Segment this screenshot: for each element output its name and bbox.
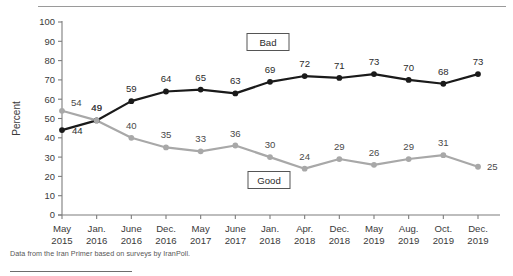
x-tick-label-year: 2016 xyxy=(155,235,176,246)
legend-good-label: Good xyxy=(257,175,280,186)
data-label-good: 25 xyxy=(487,161,498,172)
x-tick-label-year: 2018 xyxy=(294,235,315,246)
y-tick-label: 20 xyxy=(45,171,55,182)
data-point-bad xyxy=(232,91,238,97)
x-tick-label-year: 2019 xyxy=(398,235,419,246)
data-point-bad xyxy=(440,81,446,87)
bottom-divider-rule xyxy=(10,271,132,272)
data-label-good: 29 xyxy=(334,141,345,152)
y-axis-title: Percent xyxy=(11,101,22,136)
y-tick-label: 10 xyxy=(45,190,55,201)
x-tick-label-month: Dec. xyxy=(468,223,488,234)
y-tick-label: 80 xyxy=(45,55,55,66)
x-tick-label-month: May xyxy=(192,223,210,234)
data-point-good xyxy=(440,152,446,158)
data-point-good xyxy=(336,156,342,162)
data-point-good xyxy=(128,135,134,141)
y-tick-label: 30 xyxy=(45,152,55,163)
x-tick-label-year: 2019 xyxy=(433,235,454,246)
data-point-good xyxy=(232,143,238,149)
data-point-good xyxy=(267,154,273,160)
data-label-good: 26 xyxy=(369,147,380,158)
data-point-good xyxy=(59,108,65,114)
data-label-bad: 65 xyxy=(195,72,206,83)
x-tick-label-month: Aug. xyxy=(399,223,419,234)
data-point-good xyxy=(371,162,377,168)
data-label-good: 49 xyxy=(91,102,102,113)
legend-bad-label: Bad xyxy=(259,37,276,48)
data-point-good xyxy=(302,166,308,172)
x-tick-label-year: 2017 xyxy=(225,235,246,246)
x-tick-label-month: Apr. xyxy=(296,223,313,234)
x-tick-label-year: 2017 xyxy=(190,235,211,246)
x-tick-label-year: 2015 xyxy=(51,235,72,246)
x-tick-label-month: Dec. xyxy=(156,223,176,234)
data-point-bad xyxy=(406,77,412,83)
data-label-good: 30 xyxy=(265,139,276,150)
data-label-bad: 44 xyxy=(72,125,83,136)
data-label-good: 36 xyxy=(230,128,241,139)
data-label-good: 24 xyxy=(299,151,310,162)
y-tick-label: 100 xyxy=(39,16,55,27)
y-tick-label: 0 xyxy=(50,209,55,220)
data-point-good xyxy=(163,145,169,151)
x-tick-label-year: 2018 xyxy=(329,235,350,246)
chart-footnote: Data from the Iran Primer based on surve… xyxy=(10,249,190,258)
x-tick-label-month: May xyxy=(53,223,71,234)
y-tick-label: 40 xyxy=(45,132,55,143)
y-tick-label: 90 xyxy=(45,36,55,47)
x-tick-label-month: June xyxy=(121,223,142,234)
data-point-bad xyxy=(59,127,65,133)
data-label-good: 54 xyxy=(71,97,82,108)
x-tick-label-month: May xyxy=(365,223,383,234)
data-label-good: 29 xyxy=(403,141,414,152)
data-point-good xyxy=(198,148,204,154)
y-tick-label: 50 xyxy=(45,113,55,124)
data-label-good: 35 xyxy=(161,129,172,140)
data-point-bad xyxy=(267,79,273,85)
data-point-bad xyxy=(163,89,169,95)
x-tick-label-month: Jan. xyxy=(88,223,106,234)
data-point-bad xyxy=(198,87,204,93)
data-label-good: 33 xyxy=(195,133,206,144)
data-label-bad: 69 xyxy=(265,64,276,75)
data-point-good xyxy=(406,156,412,162)
data-point-good xyxy=(475,164,481,170)
data-label-bad: 71 xyxy=(334,60,345,71)
data-point-bad xyxy=(336,75,342,81)
y-tick-label: 70 xyxy=(45,74,55,85)
x-tick-label-month: Oct. xyxy=(435,223,453,234)
data-label-bad: 68 xyxy=(438,66,449,77)
data-label-bad: 70 xyxy=(403,62,414,73)
chart-page: 0102030405060708090100PercentMay2015Jan.… xyxy=(0,0,513,276)
x-tick-label-month: Jan. xyxy=(261,223,279,234)
data-label-bad: 64 xyxy=(161,73,172,84)
data-point-good xyxy=(94,118,100,124)
data-label-bad: 73 xyxy=(473,56,484,67)
data-label-bad: 73 xyxy=(369,56,380,67)
x-tick-label-year: 2016 xyxy=(121,235,142,246)
x-tick-label-month: June xyxy=(225,223,246,234)
x-tick-label-year: 2019 xyxy=(467,235,488,246)
data-label-bad: 63 xyxy=(230,75,241,86)
data-label-bad: 72 xyxy=(299,58,310,69)
data-point-bad xyxy=(475,71,481,77)
x-tick-label-year: 2019 xyxy=(363,235,384,246)
data-label-good: 31 xyxy=(438,137,449,148)
line-chart: 0102030405060708090100PercentMay2015Jan.… xyxy=(0,0,513,276)
x-tick-label-month: Dec. xyxy=(329,223,349,234)
x-tick-label-year: 2016 xyxy=(86,235,107,246)
data-label-bad: 59 xyxy=(126,83,137,94)
data-point-bad xyxy=(302,73,308,79)
x-tick-label-year: 2018 xyxy=(259,235,280,246)
data-point-bad xyxy=(371,71,377,77)
data-label-good: 40 xyxy=(126,120,137,131)
y-tick-label: 60 xyxy=(45,94,55,105)
data-point-bad xyxy=(128,98,134,104)
